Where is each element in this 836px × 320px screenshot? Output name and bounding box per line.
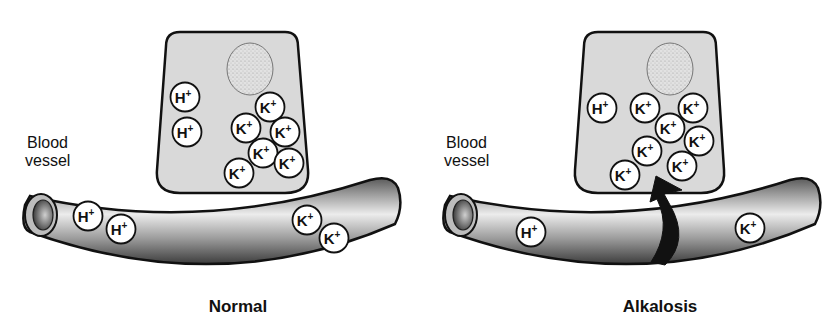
potassium-ion: K+	[293, 206, 322, 235]
vessel-label-line1: Blood	[27, 134, 68, 151]
potassium-ion: K+	[631, 94, 660, 123]
panel-alkalosis: Blood vessel H+K+K+K+K+K+K+K+H+K+ Alkalo…	[443, 32, 820, 316]
vessel-lumen	[33, 200, 53, 230]
panel-caption-alkalosis: Alkalosis	[623, 297, 698, 316]
hydrogen-ion: H+	[74, 202, 103, 231]
vessel-label-line2: vessel	[25, 152, 70, 169]
potassium-ion: K+	[225, 159, 254, 188]
potassium-ion: K+	[232, 114, 261, 143]
vessel-label-line1: Blood	[446, 134, 487, 151]
panel-caption-normal: Normal	[209, 297, 268, 316]
potassium-ion: K+	[656, 114, 685, 143]
potassium-ion: K+	[679, 94, 708, 123]
vessel-label: Blood vessel	[25, 134, 72, 169]
potassium-ion: K+	[633, 137, 662, 166]
hydrogen-ion: H+	[588, 94, 617, 123]
potassium-ion: K+	[256, 93, 285, 122]
nucleus	[647, 43, 693, 95]
potassium-ion: K+	[611, 161, 640, 190]
potassium-ion: K+	[275, 149, 304, 178]
hydrogen-ion: H+	[107, 215, 136, 244]
nucleus	[227, 43, 273, 95]
potassium-ion: K+	[668, 152, 697, 181]
hydrogen-ion: H+	[517, 218, 546, 247]
vessel-label-line2: vessel	[444, 152, 489, 169]
hydrogen-ion: H+	[173, 118, 202, 147]
potassium-ion: K+	[249, 139, 278, 168]
hydrogen-ion: H+	[171, 83, 200, 112]
vessel-label: Blood vessel	[444, 134, 491, 169]
potassium-ion: K+	[271, 118, 300, 147]
vessel-lumen	[453, 200, 473, 230]
potassium-ion: K+	[685, 127, 714, 156]
diagram-canvas: Blood vessel H+H+K+K+K+K+K+K+H+H+K+K+ No…	[0, 0, 836, 320]
panel-normal: Blood vessel H+H+K+K+K+K+K+K+H+H+K+K+ No…	[23, 32, 400, 316]
potassium-ion: K+	[320, 224, 349, 253]
potassium-ion: K+	[736, 214, 765, 243]
